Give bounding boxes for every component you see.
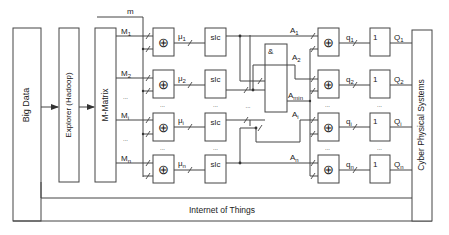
svg-text:...: ... bbox=[160, 145, 165, 151]
svg-text:slc: slc bbox=[211, 75, 221, 84]
svg-text:qi: qi bbox=[346, 117, 352, 127]
svg-text:Amin: Amin bbox=[288, 91, 303, 101]
svg-text:1: 1 bbox=[373, 75, 378, 84]
svg-text:...: ... bbox=[123, 136, 128, 142]
svg-text:A2: A2 bbox=[292, 53, 301, 63]
big-data-box bbox=[13, 28, 41, 221]
svg-text:⊕: ⊕ bbox=[158, 120, 169, 135]
svg-text:μ2: μ2 bbox=[178, 74, 187, 84]
svg-text:Ai: Ai bbox=[292, 110, 299, 120]
svg-text:...: ... bbox=[213, 102, 218, 108]
svg-text:⊕: ⊕ bbox=[323, 120, 334, 135]
svg-text:Mi: Mi bbox=[121, 111, 129, 121]
svg-text:μ1: μ1 bbox=[178, 32, 187, 42]
svg-text:A1: A1 bbox=[290, 26, 299, 36]
svg-text:slc: slc bbox=[211, 118, 221, 127]
svg-text:⊕: ⊕ bbox=[158, 162, 169, 177]
iot-label: Internet of Things bbox=[189, 205, 255, 215]
svg-text:...: ... bbox=[325, 145, 330, 151]
diagram-svg: Big Data Explorer (Hadoop) M-Matrix Cybe… bbox=[0, 0, 449, 235]
svg-text:⊕: ⊕ bbox=[323, 162, 334, 177]
svg-text:Mn: Mn bbox=[121, 154, 131, 164]
svg-text:1: 1 bbox=[373, 160, 378, 169]
svg-text:⊕: ⊕ bbox=[158, 35, 169, 50]
explorer-label: Explorer (Hadoop) bbox=[64, 72, 73, 138]
svg-text:⊕: ⊕ bbox=[158, 77, 169, 92]
svg-text:...: ... bbox=[123, 94, 128, 100]
big-data-label: Big Data bbox=[21, 88, 31, 123]
svg-text:Qn: Qn bbox=[394, 160, 404, 170]
svg-text:slc: slc bbox=[211, 33, 221, 42]
svg-text:1: 1 bbox=[373, 117, 378, 126]
cps-label: Cyber Physical Systems bbox=[416, 79, 426, 171]
system-diagram: Big Data Explorer (Hadoop) M-Matrix Cybe… bbox=[0, 0, 449, 235]
svg-text:1: 1 bbox=[373, 33, 378, 42]
and-gate-label: & bbox=[268, 47, 274, 56]
svg-text:...: ... bbox=[245, 103, 250, 109]
svg-text:q2: q2 bbox=[346, 75, 354, 85]
svg-text:...: ... bbox=[160, 102, 165, 108]
svg-text:...: ... bbox=[325, 102, 330, 108]
svg-text:...: ... bbox=[377, 145, 382, 151]
svg-text:qn: qn bbox=[346, 160, 354, 170]
svg-text:...: ... bbox=[377, 102, 382, 108]
svg-text:An: An bbox=[290, 153, 299, 163]
svg-text:Q2: Q2 bbox=[394, 75, 404, 85]
svg-text:μi: μi bbox=[178, 116, 184, 126]
svg-text:M1: M1 bbox=[121, 27, 132, 37]
svg-text:slc: slc bbox=[211, 160, 221, 169]
svg-text:...: ... bbox=[213, 145, 218, 151]
svg-text:Q1: Q1 bbox=[394, 33, 404, 43]
m-label: m bbox=[127, 7, 134, 16]
svg-text:⊕: ⊕ bbox=[323, 77, 334, 92]
m-matrix-label: M-Matrix bbox=[100, 88, 110, 122]
svg-text:μn: μn bbox=[178, 159, 186, 169]
svg-text:Qi: Qi bbox=[394, 117, 402, 127]
svg-text:q1: q1 bbox=[346, 33, 354, 43]
svg-text:M2: M2 bbox=[121, 69, 132, 79]
svg-text:⊕: ⊕ bbox=[323, 35, 334, 50]
